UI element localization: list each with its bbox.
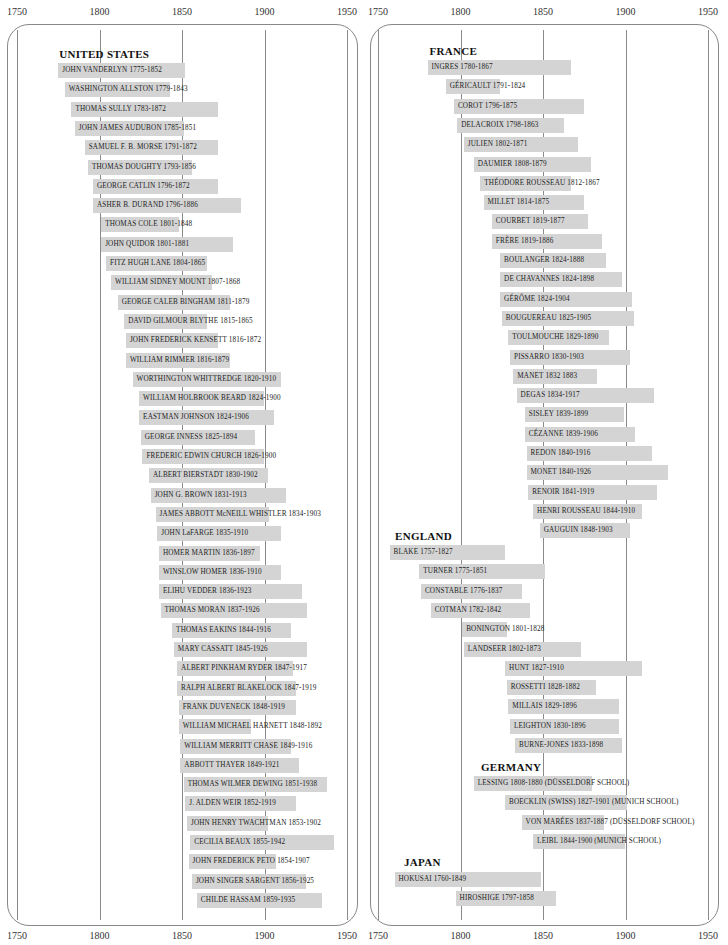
artist-label: MONET 1840-1926: [531, 465, 592, 480]
axis-tick-label: 1800: [90, 930, 110, 941]
artist-label: CONSTABLE 1776-1837: [425, 584, 503, 599]
artist-label: JULIEN 1802-1871: [468, 137, 528, 152]
artist-label: THOMAS SULLY 1783-1872: [75, 102, 166, 117]
artist-label: WILLIAM RIMMER 1816-1879: [130, 353, 229, 368]
axis-tick-label: 1800: [451, 930, 471, 941]
artist-label: BONINGTON 1801-1828: [466, 622, 544, 637]
axis-tick-label: 1850: [533, 6, 553, 17]
artist-label: THOMAS MORAN 1837-1926: [165, 603, 260, 618]
artist-label: WINSLOW HOMER 1836-1910: [163, 565, 262, 580]
artist-label: WORTHINGTON WHITTREDGE 1820-1910: [137, 372, 277, 387]
axis-tick-label: 1900: [255, 930, 275, 941]
group-title-japan: JAPAN: [404, 856, 441, 868]
artist-label: JOHN LaFARGE 1835-1910: [161, 526, 248, 541]
artist-label: GÉRICAULT 1791-1824: [450, 79, 526, 94]
group-title-england: ENGLAND: [395, 530, 452, 542]
artist-label: MARY CASSATT 1845-1926: [178, 642, 268, 657]
artist-label: GEORGE CATLIN 1796-1872: [97, 179, 190, 194]
axis-tick-label: 1800: [90, 6, 110, 17]
artist-label: CÉZANNE 1839-1906: [529, 427, 598, 442]
artist-label: BURNE-JONES 1833-1898: [519, 738, 603, 753]
axis-tick-label: 1950: [337, 930, 357, 941]
artist-label: ALBERT BIERSTADT 1830-1902: [153, 468, 258, 483]
artist-label: REDON 1840-1916: [531, 446, 591, 461]
axis-tick-label: 1850: [172, 930, 192, 941]
axis-tick-label: 1750: [368, 6, 388, 17]
artist-label: SISLEY 1839-1899: [529, 407, 588, 422]
artist-label: THÉODORE ROUSSEAU 1812-1867: [484, 176, 599, 191]
gridline-1800: [461, 30, 462, 920]
artist-label: JOHN G. BROWN 1831-1913: [155, 488, 247, 503]
artist-label: THOMAS DOUGHTY 1793-1856: [92, 160, 196, 175]
artist-label: GAUGUIN 1848-1903: [544, 523, 613, 538]
artist-label: EASTMAN JOHNSON 1824-1906: [143, 410, 249, 425]
axis-tick-label: 1900: [616, 930, 636, 941]
artist-label: JOHN VANDERLYN 1775-1852: [62, 63, 162, 78]
gridline-1750: [378, 30, 379, 920]
artist-label: ALBERT PINKHAM RYDER 1847-1917: [181, 661, 307, 676]
group-title-germany: GERMANY: [481, 761, 541, 773]
artist-label: LANDSEER 1802-1873: [468, 642, 541, 657]
gridline-1950: [708, 30, 709, 920]
artist-label: ROSSETTI 1828-1882: [511, 680, 580, 695]
axis-tick-label: 1950: [337, 6, 357, 17]
axis-tick-label: 1750: [368, 930, 388, 941]
artist-label: MILLAIS 1829-1896: [512, 699, 577, 714]
artist-label: JOHN HENRY TWACHTMAN 1853-1902: [191, 816, 321, 831]
artist-label: HIROSHIGE 1797-1858: [460, 891, 535, 906]
artist-label: COURBET 1819-1877: [496, 214, 565, 229]
axis-tick-label: 1750: [7, 6, 27, 17]
artist-label: DAUMIER 1808-1879: [478, 157, 547, 172]
axis-tick-label: 1950: [698, 930, 718, 941]
axis-tick-label: 1950: [698, 6, 718, 17]
gridline-1750: [17, 30, 18, 920]
artist-label: JOHN QUIDOR 1801-1881: [105, 237, 189, 252]
artist-label: CHILDE HASSAM 1859-1935: [201, 893, 296, 908]
axis-tick-label: 1800: [451, 6, 471, 17]
artist-label: VON MARÉES 1837-1887 (DÜSSELDORF SCHOOL): [526, 815, 695, 830]
axis-tick-label: 1900: [616, 6, 636, 17]
artist-label: INGRES 1780-1867: [432, 60, 493, 75]
artist-label: SAMUEL F. B. MORSE 1791-1872: [89, 140, 197, 155]
artist-label: LEIGHTON 1830-1896: [514, 719, 586, 734]
artist-label: ASHER B. DURAND 1796-1886: [97, 198, 198, 213]
artist-label: MILLET 1814-1875: [488, 195, 550, 210]
axis-tick-label: 1850: [533, 930, 553, 941]
group-title-united-states: UNITED STATES: [59, 48, 149, 60]
artist-label: BLAKE 1757-1827: [394, 545, 453, 560]
axis-tick-label: 1850: [172, 6, 192, 17]
artist-label: TOULMOUCHE 1829-1890: [512, 330, 598, 345]
artist-label: LESSING 1808-1880 (DÜSSELDORF SCHOOL): [478, 776, 630, 791]
artist-label: DAVID GILMOUR BLYTHE 1815-1865: [128, 314, 252, 329]
artist-label: COROT 1796-1875: [458, 99, 517, 114]
artist-label: LEIBL 1844-1900 (MUNICH SCHOOL): [537, 834, 661, 849]
artist-label: THOMAS WILMER DEWING 1851-1938: [188, 777, 318, 792]
artist-label: JAMES ABBOTT McNEILL WHISTLER 1834-1903: [160, 507, 321, 522]
artist-label: TURNER 1775-1851: [423, 564, 487, 579]
artist-label: DE CHAVANNES 1824-1898: [504, 272, 594, 287]
axis-tick-label: 1750: [7, 930, 27, 941]
artist-label: WILLIAM MICHAEL HARNETT 1848-1892: [183, 719, 322, 734]
artist-label: RENOIR 1841-1919: [532, 485, 594, 500]
artist-label: BOUGUEREAU 1825-1905: [506, 311, 591, 326]
artist-label: GEORGE CALEB BINGHAM 1811-1879: [122, 295, 250, 310]
artist-label: JOHN FREDERICK PETO 1854-1907: [193, 854, 310, 869]
artist-label: WILLIAM HOLBROOK BEARD 1824-1900: [143, 391, 281, 406]
artist-label: GÉRÔME 1824-1904: [504, 292, 570, 307]
artist-label: WILLIAM SIDNEY MOUNT 1807-1868: [115, 275, 240, 290]
artist-label: FRÈRE 1819-1886: [496, 234, 554, 249]
artist-label: JOHN SINGER SARGENT 1856-1925: [196, 874, 314, 889]
artist-label: FITZ HUGH LANE 1804-1865: [110, 256, 205, 271]
artist-label: ELIHU VEDDER 1836-1923: [163, 584, 252, 599]
group-title-france: FRANCE: [430, 45, 478, 57]
gridline-1950: [347, 30, 348, 920]
artist-label: PISSARRO 1830-1903: [514, 350, 584, 365]
artist-label: COTMAN 1782-1842: [435, 603, 502, 618]
artist-label: GEORGE INNESS 1825-1894: [145, 430, 238, 445]
artist-label: JOHN JAMES AUDUBON 1785-1851: [79, 121, 196, 136]
artist-label: WILLIAM MERRITT CHASE 1849-1916: [184, 739, 312, 754]
artist-label: FREDERIC EDWIN CHURCH 1826-1900: [146, 449, 276, 464]
artist-label: RALPH ALBERT BLAKELOCK 1847-1919: [181, 681, 316, 696]
artist-label: CECILIA BEAUX 1855-1942: [194, 835, 285, 850]
artist-label: BOECKLIN (SWISS) 1827-1901 (MUNICH SCHOO…: [509, 795, 679, 810]
